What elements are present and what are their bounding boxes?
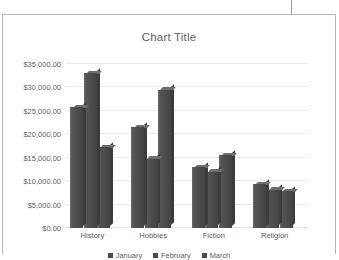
bar-side-face — [205, 162, 208, 225]
bar-front-face — [131, 127, 144, 228]
bar-group — [192, 64, 232, 228]
y-axis-tick-label: $20,000.00 — [23, 130, 61, 139]
bar-side-face — [292, 186, 295, 225]
legend-label: March — [210, 251, 231, 260]
bar-side-face — [171, 85, 174, 226]
bar-front-face — [253, 184, 266, 228]
bar-side-face — [232, 150, 235, 225]
bar-side-face — [110, 142, 113, 225]
x-axis-labels: HistoryHobbiesFictionReligion — [65, 231, 308, 245]
y-axis-tick-label: $5,000.00 — [28, 200, 61, 209]
legend-label: February — [161, 251, 191, 260]
y-axis-tick-label: $0.00 — [42, 224, 61, 233]
bar-front-face — [84, 73, 97, 228]
bar-side-face — [279, 184, 282, 225]
chart-legend[interactable]: JanuaryFebruaryMarch — [3, 251, 335, 260]
bar-group — [131, 64, 171, 228]
legend-swatch-icon — [108, 253, 113, 258]
bar-front-face — [70, 107, 83, 228]
bar-side-face — [83, 102, 86, 225]
y-axis-labels: $0.00$5,000.00$10,000.00$15,000.00$20,00… — [3, 64, 61, 228]
legend-item-february[interactable]: February — [153, 251, 191, 260]
bar-january-religion[interactable] — [253, 184, 266, 228]
chart-frame[interactable]: Chart Title $0.00$5,000.00$10,000.00$15,… — [2, 14, 336, 254]
legend-item-january[interactable]: January — [108, 251, 142, 260]
bar-group — [70, 64, 110, 228]
y-axis-tick-label: $15,000.00 — [23, 153, 61, 162]
bar-side-face — [144, 122, 147, 225]
x-axis-category-history: History — [81, 231, 105, 240]
bar-january-history[interactable] — [70, 107, 83, 228]
x-axis-category-hobbies: Hobbies — [139, 231, 167, 240]
bar-side-face — [218, 167, 221, 226]
bar-side-face — [157, 154, 160, 226]
y-axis-tick-label: $10,000.00 — [23, 177, 61, 186]
bar-side-face — [97, 68, 100, 225]
bar-january-fiction[interactable] — [192, 167, 205, 228]
plot-area — [65, 64, 308, 228]
y-axis-tick-label: $25,000.00 — [23, 106, 61, 115]
legend-swatch-icon — [153, 253, 158, 258]
x-axis-category-religion: Religion — [261, 231, 288, 240]
bar-january-hobbies[interactable] — [131, 127, 144, 228]
legend-swatch-icon — [202, 253, 207, 258]
y-axis-tick-label: $35,000.00 — [23, 60, 61, 69]
bar-front-face — [192, 167, 205, 228]
bar-group — [253, 64, 293, 228]
legend-label: January — [116, 251, 142, 260]
chart-title[interactable]: Chart Title — [3, 31, 335, 43]
y-axis-tick-label: $30,000.00 — [23, 83, 61, 92]
legend-item-march[interactable]: March — [202, 251, 231, 260]
x-axis-category-fiction: Fiction — [203, 231, 225, 240]
bar-side-face — [266, 179, 269, 225]
bar-february-history[interactable] — [84, 73, 97, 228]
